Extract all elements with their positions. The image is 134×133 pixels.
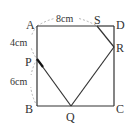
label-P: P xyxy=(25,55,32,69)
measurement-AP: 4cm xyxy=(10,37,27,48)
label-Q: Q xyxy=(66,110,75,124)
measurement-PB: 6cm xyxy=(10,76,27,87)
segment-SR xyxy=(97,26,114,47)
label-R: R xyxy=(116,41,124,55)
label-C: C xyxy=(116,102,124,116)
segment-RQ xyxy=(71,47,114,106)
segment-P-mark xyxy=(37,59,43,67)
label-A: A xyxy=(26,18,35,32)
measurement-AS: 8cm xyxy=(56,13,73,24)
label-S: S xyxy=(94,13,101,27)
geometry-figure: A D S R P B Q C 8cm 4cm 6cm xyxy=(0,0,134,133)
label-B: B xyxy=(25,102,33,116)
label-D: D xyxy=(116,18,125,32)
